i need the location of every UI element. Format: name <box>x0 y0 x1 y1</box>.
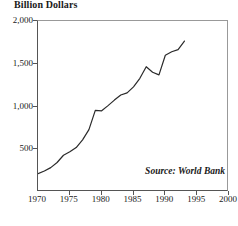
y-tick-label: 500 <box>20 143 34 153</box>
x-tick-label: 1980 <box>92 194 110 204</box>
x-tick-label: 1970 <box>28 194 46 204</box>
data-line-series-total-external-debt <box>38 41 184 174</box>
y-tick-label: 2,000 <box>13 15 33 25</box>
y-tick-label: 1,500 <box>13 58 33 68</box>
x-tick-label: 1985 <box>124 194 142 204</box>
source-annotation: Source: World Bank <box>145 166 225 176</box>
y-axis-labels: 5001,0001,5002,000 <box>0 0 33 226</box>
y-tick-label: 1,000 <box>13 101 33 111</box>
chart-figure: Billion Dollars 5001,0001,5002,000 19701… <box>0 0 238 226</box>
x-tick-label: 1975 <box>60 194 78 204</box>
x-tick-label: 1995 <box>187 194 205 204</box>
x-tick-label: 2000 <box>219 194 237 204</box>
x-tick-label: 1990 <box>155 194 173 204</box>
